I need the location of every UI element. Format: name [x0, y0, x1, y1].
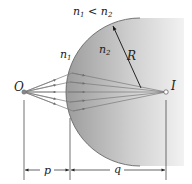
- object-distance-label: p: [44, 164, 51, 177]
- image-point: [164, 90, 168, 94]
- medium-left-label: n1: [60, 48, 72, 62]
- condition-label: n1 < n2: [73, 5, 113, 19]
- radius-label: R: [126, 49, 136, 63]
- object-label: O: [14, 80, 24, 94]
- incident-rays: [24, 73, 73, 111]
- refraction-diagram: n1 < n2 n1 n2 R O I p q: [0, 0, 192, 184]
- image-distance-label: q: [114, 163, 121, 176]
- image-label: I: [170, 79, 176, 93]
